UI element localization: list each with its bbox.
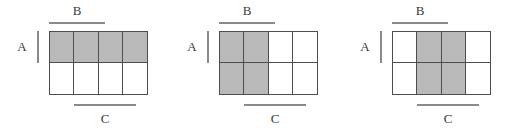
grid-cell xyxy=(50,63,74,94)
grid-cell xyxy=(50,32,74,63)
panel-c-highlighted: A B C xyxy=(343,0,516,131)
label-c: C xyxy=(88,110,122,128)
grid-cell xyxy=(466,32,490,63)
label-b: B xyxy=(60,2,94,20)
event-b-extent-rule xyxy=(392,22,448,24)
grid-cell xyxy=(220,32,244,63)
grid-cell xyxy=(293,32,317,63)
grid-cell xyxy=(442,63,466,94)
probability-grid-figure: A B C A B xyxy=(0,0,518,131)
grid-cell xyxy=(393,63,417,94)
grid-cell xyxy=(99,32,123,63)
event-b-extent-rule xyxy=(219,22,275,24)
event-b-extent-rule xyxy=(49,22,105,24)
event-c-extent-rule xyxy=(244,104,306,106)
cell-grid xyxy=(392,31,491,95)
label-a: A xyxy=(182,38,202,56)
grid-cell xyxy=(123,63,147,94)
event-c-extent-rule xyxy=(74,104,136,106)
label-c: C xyxy=(431,110,465,128)
label-a: A xyxy=(355,38,375,56)
grid-cell xyxy=(269,63,293,94)
grid-cell xyxy=(123,32,147,63)
event-a-extent-rule xyxy=(207,31,209,63)
grid-cell xyxy=(417,63,441,94)
event-a-extent-rule xyxy=(37,31,39,63)
grid-cell xyxy=(466,63,490,94)
grid-cell xyxy=(244,63,268,94)
grid-cell xyxy=(74,32,98,63)
label-a: A xyxy=(12,38,32,56)
grid-cell xyxy=(393,32,417,63)
grid-cell xyxy=(269,32,293,63)
grid-cell xyxy=(99,63,123,94)
grid-cell xyxy=(220,63,244,94)
label-c: C xyxy=(258,110,292,128)
grid-cell xyxy=(74,63,98,94)
cell-grid xyxy=(219,31,318,95)
grid-cell xyxy=(244,32,268,63)
label-b: B xyxy=(403,2,437,20)
event-c-extent-rule xyxy=(417,104,479,106)
grid-cell xyxy=(293,63,317,94)
panel-b-highlighted: A B C xyxy=(170,0,343,131)
cell-grid xyxy=(49,31,148,95)
grid-cell xyxy=(442,32,466,63)
panel-a-highlighted: A B C xyxy=(0,0,173,131)
grid-cell xyxy=(417,32,441,63)
label-b: B xyxy=(230,2,264,20)
event-a-extent-rule xyxy=(380,31,382,63)
